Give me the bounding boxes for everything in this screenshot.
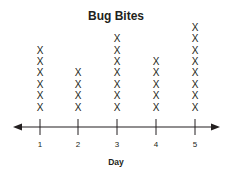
left-arrow-icon [13,124,22,131]
tick-label-1: 1 [33,140,47,149]
tick-label-4: 4 [149,140,163,149]
tick-label-2: 2 [71,140,85,149]
right-arrow-icon [211,124,220,131]
tick-label-3: 3 [110,140,124,149]
tick-label-5: 5 [188,140,202,149]
number-line [0,0,232,179]
x-axis-label: Day [0,157,232,167]
